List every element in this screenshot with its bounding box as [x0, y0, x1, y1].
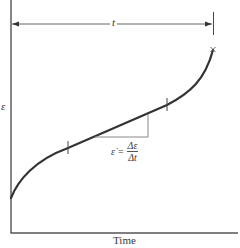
- y-axis-label: ε: [1, 100, 5, 112]
- equals-sign: =: [118, 146, 124, 157]
- arrow-left-icon: [12, 22, 19, 27]
- numerator: Δε: [127, 140, 139, 152]
- creep-curve: [11, 50, 213, 198]
- duration-label: t: [110, 16, 117, 28]
- fraction: Δε Δt: [127, 140, 139, 163]
- denominator: Δt: [128, 152, 137, 163]
- strain-rate-symbol: ε̇: [111, 146, 115, 157]
- creep-diagram: [0, 0, 240, 248]
- arrow-right-icon: [205, 22, 212, 27]
- strain-rate-formula: ε̇ = Δε Δt: [111, 140, 138, 163]
- x-axis-label: Time: [113, 234, 136, 246]
